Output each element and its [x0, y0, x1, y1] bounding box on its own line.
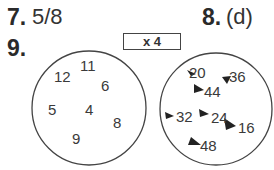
input-number: 8 — [113, 114, 121, 131]
output-number: 36 — [229, 68, 246, 85]
output-number: 20 — [189, 64, 206, 81]
arrow-icon — [194, 84, 204, 93]
input-number: 6 — [101, 77, 109, 94]
mapping-diagram: 11 12 6 5 4 8 9 20 36 44 32 24 16 48 — [0, 0, 274, 170]
output-number: 24 — [211, 109, 228, 126]
input-number: 9 — [72, 130, 80, 147]
output-number: 16 — [238, 119, 255, 136]
output-number: 32 — [176, 108, 193, 125]
input-number: 4 — [85, 101, 93, 118]
input-number: 12 — [54, 68, 71, 85]
arrow-icon — [199, 109, 209, 117]
input-number: 5 — [48, 101, 56, 118]
output-number: 44 — [204, 83, 221, 100]
output-number: 48 — [200, 137, 217, 154]
input-number: 11 — [80, 57, 96, 74]
arrow-icon — [165, 112, 174, 119]
